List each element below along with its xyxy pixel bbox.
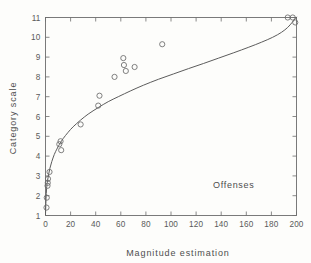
y-tick-label: 9 (36, 53, 41, 62)
y-tick-label: 7 (36, 93, 41, 102)
x-tick-label: 140 (214, 220, 228, 229)
y-tick-label: 8 (36, 73, 41, 82)
chart-annotations: Offenses (213, 180, 254, 190)
x-tick-label: 80 (141, 220, 151, 229)
y-tick-label: 10 (31, 33, 41, 42)
annotation-offenses: Offenses (213, 180, 254, 190)
y-tick-label: 11 (32, 14, 41, 23)
x-tick-label: 20 (66, 220, 76, 229)
x-tick-label: 200 (289, 220, 303, 229)
x-tick-label: 0 (43, 220, 48, 229)
x-axis-title: Magnitude estimation (126, 248, 230, 258)
x-tick-label: 100 (164, 220, 178, 229)
y-tick-label: 6 (36, 113, 41, 122)
x-tick-label: 180 (264, 220, 278, 229)
x-tick-label: 40 (91, 220, 101, 229)
y-tick-label: 4 (36, 152, 41, 161)
y-axis-title: Category scale (8, 82, 18, 155)
y-tick-label: 3 (36, 172, 41, 181)
x-tick-label: 60 (116, 220, 126, 229)
y-tick-label: 2 (36, 192, 41, 201)
y-tick-label: 5 (36, 132, 41, 141)
x-tick-label: 160 (239, 220, 253, 229)
scatter-chart: 020406080100120140160180200 123456789101… (0, 0, 311, 263)
figure-panel: 020406080100120140160180200 123456789101… (0, 0, 311, 263)
y-tick-label: 1 (36, 212, 41, 221)
x-tick-label: 120 (189, 220, 203, 229)
